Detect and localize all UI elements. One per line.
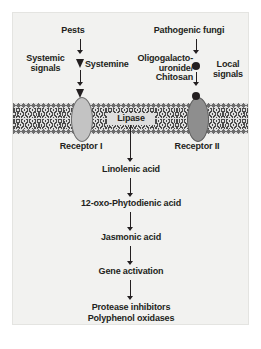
cascade-step-gene-activation: Gene activation	[85, 267, 177, 277]
receptor-1-shape	[71, 97, 93, 142]
arrowhead-lipase-to-linolenic	[127, 158, 133, 162]
enzyme-label-lipase: Lipase	[108, 114, 154, 124]
arrow-gene-activation-to-outputs	[130, 280, 131, 297]
arrow-jasmonic-to-gene-activation	[130, 246, 131, 262]
receptor-2-shape	[187, 97, 209, 142]
arrowhead-gene-activation-to-outputs	[127, 296, 133, 300]
cascade-step-linolenic-acid: Linolenic acid	[85, 165, 177, 175]
output-protease-inhibitors: Protease inhibitors	[60, 303, 202, 313]
arrowhead-linolenic-to-phytodienic	[127, 193, 133, 197]
arrowhead-fungi-to-elicitor	[193, 50, 199, 54]
signal-label-systemic: Systemic signals	[19, 54, 72, 73]
arrow-linolenic-to-phytodienic	[130, 178, 131, 194]
arrowhead-pests-to-systemine	[77, 50, 83, 54]
arrowhead-jasmonic-to-gene-activation	[127, 261, 133, 265]
systemine-marker-icon	[76, 59, 84, 68]
bound-systemine-icon	[76, 89, 84, 98]
signal-label-local: Local signals	[207, 60, 249, 79]
output-polyphenol-oxidases: Polyphenol oxidases	[60, 314, 202, 324]
stimulus-label-pathogenic-fungi: Pathogenic fungi	[143, 26, 235, 36]
receptor-2-label: Receptor II	[166, 142, 228, 152]
arrowhead-elicitor-to-receptor-2	[193, 82, 199, 86]
arrowhead-systemine-to-receptor-1	[77, 82, 83, 86]
cascade-step-jasmonic-acid: Jasmonic acid	[86, 233, 176, 243]
elicitor-label-oligogalactouronide-chitosan: Oligogalacto- uronide/ Chitosan	[133, 54, 193, 83]
receptor-1-label: Receptor I	[51, 142, 111, 152]
arrowhead-phytodienic-to-jasmonic	[127, 227, 133, 231]
bound-oligogalactouronide-icon	[192, 92, 200, 100]
oligogalactouronide-marker-icon	[192, 62, 200, 70]
cascade-step-12-oxo-phytodienic-acid: 12-oxo-Phytodienic acid	[56, 199, 206, 209]
arrow-phytodienic-to-jasmonic	[130, 212, 131, 228]
pathway-diagram: Pests Pathogenic fungi Systemic signals …	[0, 0, 261, 349]
arrow-lipase-to-linolenic	[130, 125, 131, 159]
stimulus-label-pests: Pests	[38, 26, 108, 36]
